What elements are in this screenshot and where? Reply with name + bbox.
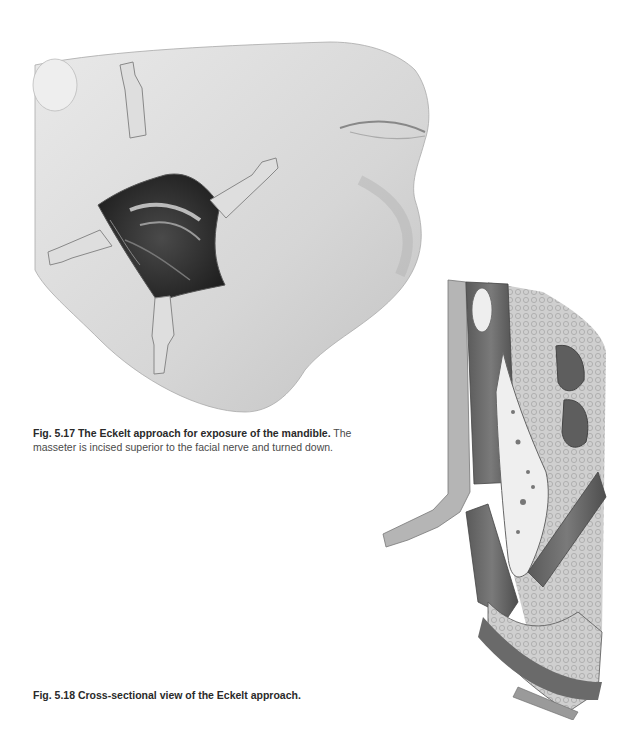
figure-label: Fig. 5.18: [33, 689, 75, 701]
figure-label: Fig. 5.17: [33, 427, 75, 439]
figure-5-17-caption: Fig. 5.17 The Eckelt approach for exposu…: [33, 426, 353, 454]
cross-section-drawing: [378, 272, 614, 720]
figure-5-18-caption: Fig. 5.18 Cross-sectional view of the Ec…: [33, 688, 333, 702]
figure-title: The Eckelt approach for exposure of the …: [78, 427, 331, 439]
figure-5-18-illustration: [378, 272, 614, 720]
figure-title: Cross-sectional view of the Eckelt appro…: [78, 689, 301, 701]
